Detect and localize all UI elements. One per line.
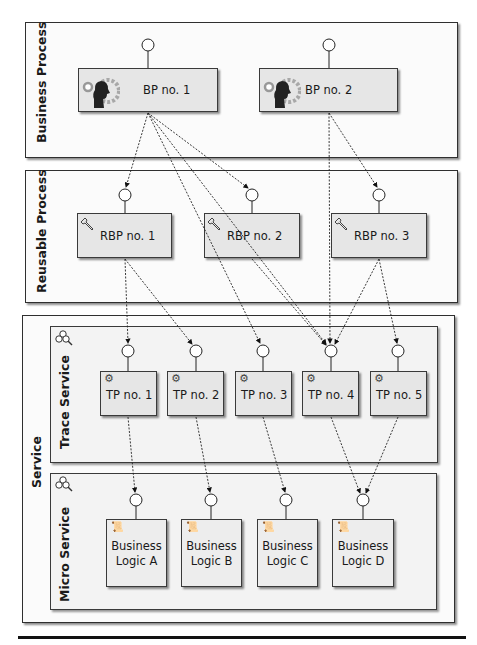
task-label: BP no. 2 (305, 83, 352, 97)
task-label: RBP no. 2 (227, 229, 282, 243)
task-label-line2: Logic D (333, 554, 393, 569)
task-label: TP no. 3 (241, 388, 287, 402)
task-tp-4[interactable]: ⚙ TP no. 4 (302, 371, 359, 416)
task-label: TP no. 4 (308, 388, 354, 402)
gear-icon: ⚙ (104, 372, 114, 385)
person-gear-icon (263, 72, 301, 110)
task-business-logic-a[interactable]: 📜 Business Logic A (106, 519, 167, 587)
lane-label-micro-service: Micro Service (57, 507, 72, 602)
task-label: RBP no. 3 (354, 229, 409, 243)
script-icon: 📜 (337, 521, 349, 532)
task-business-logic-c[interactable]: 📜 Business Logic C (257, 519, 318, 587)
task-label-line2: Logic A (107, 554, 166, 569)
bottom-rule (18, 636, 466, 639)
task-business-logic-d[interactable]: 📜 Business Logic D (332, 519, 394, 587)
task-label-line1: Business (333, 539, 393, 554)
task-tp-5[interactable]: ⚙ TP no. 5 (370, 371, 427, 416)
pool-label-service: Service (29, 436, 44, 488)
pool-label-reusable-process: Reusable Process (34, 169, 49, 293)
task-label-line2: Logic C (258, 554, 317, 569)
pool-label-business-process: Business Process (34, 22, 49, 143)
task-tp-3[interactable]: ⚙ TP no. 3 (235, 371, 292, 416)
wrench-icon (335, 217, 349, 231)
task-label-line1: Business (107, 539, 166, 554)
task-tp-2[interactable]: ⚙ TP no. 2 (167, 371, 224, 416)
script-icon: 📜 (262, 521, 274, 532)
task-label-line1: Business (258, 539, 317, 554)
gear-icon: ⚙ (374, 372, 384, 385)
task-rbp-1[interactable]: RBP no. 1 (77, 213, 172, 258)
task-tp-1[interactable]: ⚙ TP no. 1 (100, 371, 157, 416)
task-label: TP no. 1 (106, 388, 152, 402)
gear-icon: ⚙ (306, 372, 316, 385)
task-label: TP no. 5 (376, 388, 422, 402)
task-rbp-3[interactable]: RBP no. 3 (331, 213, 427, 258)
person-gear-icon (82, 72, 120, 110)
task-bp-2[interactable]: BP no. 2 (259, 68, 398, 112)
task-label: TP no. 2 (173, 388, 219, 402)
script-icon: 📜 (186, 521, 198, 532)
wrench-icon (81, 217, 95, 231)
task-label: RBP no. 1 (100, 229, 155, 243)
wrench-icon (208, 217, 222, 231)
task-rbp-2[interactable]: RBP no. 2 (204, 213, 300, 258)
task-bp-1[interactable]: BP no. 1 (78, 68, 218, 112)
gear-icon: ⚙ (171, 372, 181, 385)
task-business-logic-b[interactable]: 📜 Business Logic B (181, 519, 242, 587)
task-label-line2: Logic B (182, 554, 241, 569)
task-label-line1: Business (182, 539, 241, 554)
lane-label-trace-service: Trace Service (57, 355, 72, 449)
task-label: BP no. 1 (143, 83, 190, 97)
gear-icon: ⚙ (239, 372, 249, 385)
script-icon: 📜 (111, 521, 123, 532)
